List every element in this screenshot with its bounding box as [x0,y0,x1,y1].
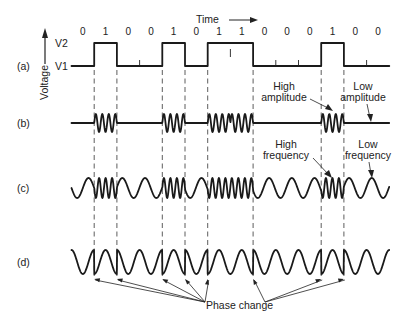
panel-label-b: (b) [17,117,30,129]
amplitude-modulated-wave [72,114,390,132]
bit-label: 1 [239,26,245,37]
modulation-diagram: Time Voltage V2 V1 (a) (b) (c) (d) 01001… [0,0,411,330]
bit-label: 0 [307,26,313,37]
bit-labels: 01001011000100 [80,26,381,37]
svg-text:frequency: frequency [263,149,310,161]
bit-label: 1 [216,26,222,37]
bit-label: 1 [103,26,109,37]
level-label-v2: V2 [55,37,68,49]
annotation-low-amplitude: Low amplitude [340,80,386,122]
arrowhead-icon [253,279,257,285]
voltage-axis-label: Voltage [38,65,50,100]
annotation-low-frequency: Low frequency [345,138,392,178]
bit-label: 0 [375,26,381,37]
annotation-high-frequency: High frequency [263,138,332,178]
bit-label: 0 [284,26,290,37]
bit-label: 0 [148,26,154,37]
phase-modulated-wave [72,250,390,274]
bit-label: 1 [171,26,177,37]
frequency-modulated-wave [72,178,390,198]
svg-text:amplitude: amplitude [340,91,386,103]
time-arrow-icon [229,17,258,23]
bit-label: 0 [352,26,358,37]
time-axis-label: Time [196,13,219,25]
bit-label: 0 [125,26,131,37]
bit-label: 0 [262,26,268,37]
svg-text:frequency: frequency [345,149,392,161]
voltage-arrow-icon [42,28,48,64]
arrowhead-icon [94,278,100,282]
bit-label: 1 [330,26,336,37]
panel-label-c: (c) [17,182,29,194]
level-label-v1: V1 [55,60,68,72]
svg-text:amplitude: amplitude [261,91,307,103]
arrowhead-icon [367,114,373,122]
panel-label-d: (d) [17,256,30,268]
arrowhead-icon [325,104,333,111]
bit-label: 0 [194,26,200,37]
panel-label-a: (a) [17,60,30,72]
annotation-phase-change: Phase change [206,299,273,311]
arrowhead-icon [162,279,168,283]
arrowhead-icon [117,278,123,282]
arrowhead-icon [368,170,374,178]
annotation-high-amplitude: High amplitude [261,80,333,111]
bit-label: 0 [80,26,86,37]
